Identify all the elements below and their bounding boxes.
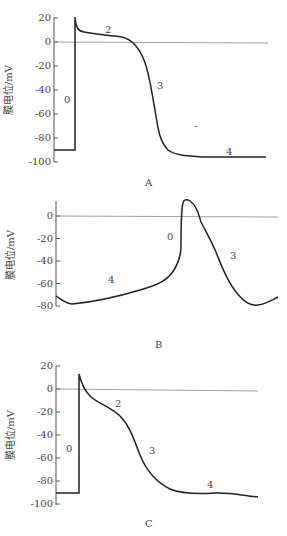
panel-caption: A [144,177,153,188]
phase-label-0: 0 [64,94,70,105]
action-potential-curve [56,374,258,497]
panel-caption: C [145,518,153,529]
panel-caption: B [155,339,162,350]
y-axis-label: 膜电位/mV [4,229,16,280]
y-axis-label: 膜电位/mV [4,409,16,460]
tick-label: -40 [35,84,51,95]
panel-b: 0 -20 -40 -60 -80 膜电位/mV 4 0 3 B [4,200,278,350]
tick-label: -100 [31,498,53,509]
stray-mark: - [194,120,197,131]
tick-label: -60 [35,108,51,119]
tick-label: -80 [37,300,53,311]
tick-label: -60 [37,278,53,289]
zero-reference-line [56,216,278,217]
y-axis-label: 膜电位/mV [2,64,14,115]
panel-c: 20 0 -20 -40 -60 -80 -100 膜电位/mV 0 2 3 4… [4,360,258,529]
tick-label: -40 [37,429,53,440]
tick-label: -20 [35,60,51,71]
phase-label-3: 3 [157,80,163,91]
phase-label-3: 3 [149,445,155,456]
tick-label: -80 [37,475,53,486]
phase-label-2: 2 [115,398,121,409]
phase-label-4: 4 [207,479,213,490]
tick-label: 0 [45,36,51,47]
tick-label: -100 [29,156,51,167]
panel-a: 20 0 -20 -40 -60 -80 -100 膜电位/mV 0 2 3 4… [2,12,268,188]
tick-label: -60 [37,452,53,463]
phase-label-4: 4 [226,146,232,157]
tick-label: 0 [47,383,53,394]
phase-label-0: 0 [167,231,173,242]
phase-label-3: 3 [230,250,236,261]
tick-label: 20 [38,12,51,23]
phase-label-2: 2 [105,24,111,35]
phase-label-4: 4 [108,274,114,285]
tick-label: 20 [40,360,53,371]
tick-label: -80 [35,132,51,143]
tick-label: -40 [37,255,53,266]
action-potential-curve [56,200,278,305]
tick-label: -20 [37,406,53,417]
phase-label-0: 0 [66,443,72,454]
zero-reference-line [54,42,268,43]
tick-label: -20 [37,233,53,244]
tick-label: 0 [47,210,53,221]
figure: 20 0 -20 -40 -60 -80 -100 膜电位/mV 0 2 3 4… [0,0,287,536]
